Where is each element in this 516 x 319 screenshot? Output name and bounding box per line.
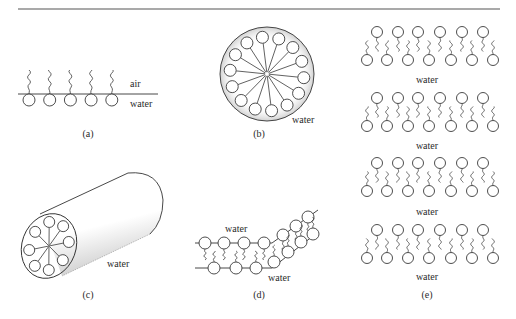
hydrophilic-head <box>85 94 97 106</box>
amphiphile-molecule <box>238 237 250 260</box>
amphiphile-molecule <box>446 239 457 264</box>
amphiphile-molecule <box>467 239 478 264</box>
hydrophilic-head <box>218 237 230 249</box>
hydrophilic-head <box>277 229 289 241</box>
hydrophilic-head <box>199 237 211 249</box>
hydrophilic-head <box>268 256 280 268</box>
hydrophobic-tail <box>492 41 495 55</box>
panel-a-air-label: air <box>130 78 141 89</box>
hydrophobic-tail <box>366 239 369 253</box>
hydrophobic-tail <box>397 236 400 250</box>
amphiphile-molecule <box>362 239 373 264</box>
hydrophobic-tail <box>366 107 369 121</box>
amphiphile-molecule <box>372 225 383 250</box>
hydrophobic-tail <box>461 169 464 183</box>
amphiphile-molecule <box>403 172 414 197</box>
amphiphile-molecule <box>43 246 54 275</box>
hydrophilic-head <box>413 158 424 169</box>
amphiphile-molecule <box>382 172 393 197</box>
hydrophobic-tail <box>461 38 464 52</box>
hydrophilic-head <box>43 265 54 276</box>
hydrophobic-tail <box>471 41 474 55</box>
amphiphile-molecule <box>64 70 76 106</box>
hydrophilic-head <box>295 236 307 248</box>
amphiphile-molecule <box>446 41 457 66</box>
hydrophilic-head <box>273 33 285 45</box>
amphiphile-molecule <box>467 172 478 197</box>
hydrophobic-tail <box>428 41 431 55</box>
amphiphile-molecule <box>424 239 435 264</box>
amphiphile-molecule <box>413 93 424 118</box>
hydrophobic-tail <box>48 70 51 94</box>
hydrophilic-head <box>403 186 414 197</box>
hydrophilic-head <box>296 55 308 67</box>
hydrophilic-head <box>446 55 457 66</box>
hydrophilic-head <box>307 228 319 240</box>
hydrophilic-head <box>290 220 302 232</box>
panel-d-upper-water-label: water <box>225 223 248 234</box>
hydrophobic-tail <box>482 38 485 52</box>
amphiphile-molecule <box>488 41 499 66</box>
hydrophilic-head <box>403 121 414 132</box>
hydrophobic-tail <box>471 239 474 253</box>
hydrophobic-tail <box>28 70 31 94</box>
hydrophilic-head <box>457 225 468 236</box>
hydrophilic-head <box>435 93 446 104</box>
hydrophobic-tail <box>407 107 410 121</box>
amphiphile-molecule <box>403 41 414 66</box>
hydrophilic-head <box>467 253 478 264</box>
hydrophilic-head <box>382 55 393 66</box>
hydrophobic-tail <box>110 70 113 94</box>
hydrophilic-head <box>241 37 253 49</box>
hydrophilic-head <box>57 255 68 266</box>
hydrophobic-tail <box>38 246 49 261</box>
hydrophobic-tail <box>428 107 431 121</box>
hydrophilic-head <box>435 225 446 236</box>
hydrophilic-head <box>457 27 468 38</box>
hydrophilic-head <box>467 55 478 66</box>
hydrophilic-head <box>44 216 55 227</box>
hydrophilic-head <box>287 42 299 54</box>
amphiphile-molecule <box>435 225 446 250</box>
hydrophobic-tail <box>482 104 485 118</box>
hydrophobic-tail <box>450 107 453 121</box>
amphiphile-molecule <box>382 239 393 264</box>
hydrophobic-tail <box>386 239 389 253</box>
hydrophobic-tail <box>492 107 494 121</box>
bilayer-row <box>362 158 499 197</box>
hydrophilic-head <box>403 55 414 66</box>
amphiphile-molecule <box>44 70 56 106</box>
hydrophilic-head <box>256 31 268 43</box>
hydrophobic-tail <box>407 172 410 186</box>
hydrophilic-head <box>281 99 293 111</box>
hydrophilic-head <box>362 121 373 132</box>
hydrophobic-tail <box>417 169 420 183</box>
amphiphile-molecule <box>393 225 404 250</box>
hydrophilic-head <box>362 55 373 66</box>
hydrophobic-tail <box>492 239 495 253</box>
amphiphile-molecule <box>488 239 499 264</box>
hydrophilic-head <box>424 121 435 132</box>
amphiphile-molecule <box>424 107 435 132</box>
panel-d-lower-water-label: water <box>268 272 291 283</box>
hydrophilic-head <box>44 94 56 106</box>
hydrophobic-tail <box>439 38 442 52</box>
panel-b-caption: (b) <box>253 128 265 140</box>
hydrophilic-head <box>435 27 446 38</box>
amphiphile-molecule <box>393 158 404 183</box>
hydrophobic-tail <box>386 107 388 121</box>
hydrophilic-head <box>282 246 294 258</box>
hydrophobic-tail <box>450 239 453 253</box>
hydrophilic-head <box>106 94 118 106</box>
amphiphile-molecule <box>362 41 373 66</box>
panel-b-micelle: water (b) <box>220 27 315 140</box>
panel-a-water-label: water <box>130 98 153 109</box>
hydrophilic-head <box>24 245 35 256</box>
amphiphile-molecule <box>382 107 393 132</box>
hydrophilic-head <box>478 225 489 236</box>
hydrophilic-head <box>224 64 236 76</box>
hydrophilic-head <box>413 225 424 236</box>
bilayer-row <box>362 225 499 264</box>
hydrophilic-head <box>424 55 435 66</box>
amphiphile-molecule <box>488 107 499 132</box>
